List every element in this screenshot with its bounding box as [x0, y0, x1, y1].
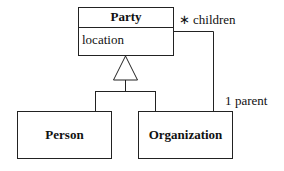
children-multiplicity: ∗	[179, 12, 190, 28]
parent-multiplicity: 1	[225, 93, 232, 109]
organization-class-name: Organization	[138, 127, 233, 143]
children-role-label: children	[193, 12, 236, 28]
generalization-triangle-icon	[114, 56, 138, 80]
party-attribute: location	[82, 32, 124, 48]
person-class-name: Person	[17, 127, 112, 143]
diagram-canvas	[0, 0, 284, 171]
association-line	[173, 32, 214, 112]
parent-role-label: parent	[235, 93, 267, 109]
party-class-name: Party	[78, 9, 174, 25]
